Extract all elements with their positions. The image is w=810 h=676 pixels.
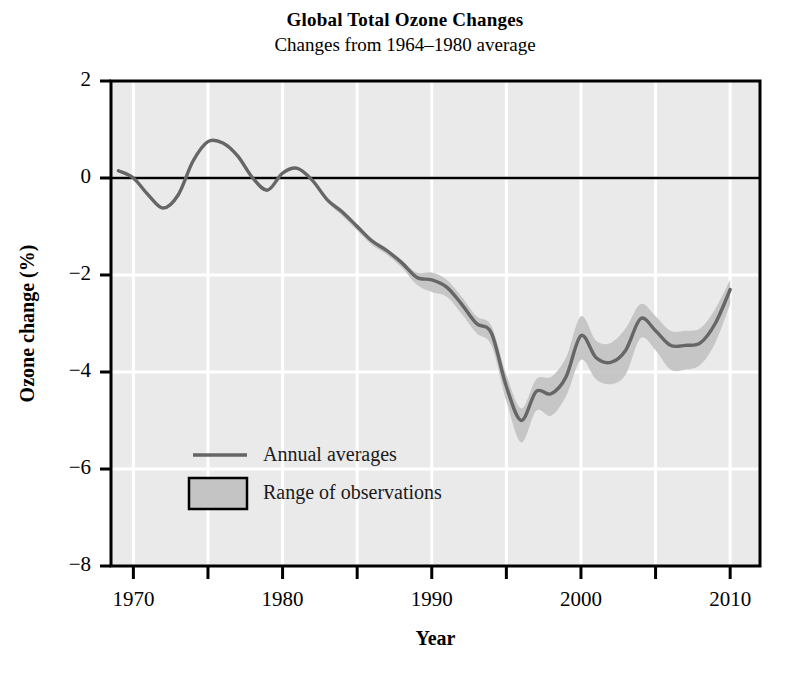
y-tick-label: −6 — [69, 455, 91, 479]
y-axis-ticks: 20−2−4−6−8 — [69, 67, 111, 576]
x-tick-label: 2000 — [560, 587, 602, 611]
x-axis-title: Year — [416, 627, 456, 649]
x-tick-label: 1980 — [262, 587, 304, 611]
chart-title: Global Total Ozone Changes — [0, 8, 810, 32]
x-tick-label: 1990 — [411, 587, 453, 611]
y-tick-label: 0 — [81, 164, 92, 188]
x-tick-label: 2010 — [709, 587, 751, 611]
legend-label-annual-averages: Annual averages — [263, 443, 397, 466]
y-tick-label: −2 — [69, 261, 91, 285]
y-axis-title: Ozone change (%) — [16, 245, 39, 403]
y-tick-label: −4 — [69, 358, 92, 382]
y-tick-label: −8 — [69, 552, 91, 576]
x-axis-ticks: 19701980199020002010 — [112, 566, 751, 611]
legend-label-range-of-observations: Range of observations — [263, 481, 442, 504]
chart-svg: 20−2−4−6−8 19701980199020002010 Ozone ch… — [0, 0, 810, 676]
x-tick-label: 1970 — [112, 587, 154, 611]
y-tick-label: 2 — [81, 67, 92, 91]
chart-subtitle: Changes from 1964–1980 average — [0, 32, 810, 58]
legend-band-swatch — [189, 478, 247, 509]
ozone-chart-figure: Global Total Ozone Changes Changes from … — [0, 0, 810, 676]
title-block: Global Total Ozone Changes Changes from … — [0, 8, 810, 58]
